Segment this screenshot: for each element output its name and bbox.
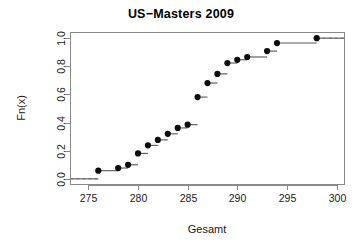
y-tick-label: 0.0: [55, 172, 67, 187]
x-axis-title: Gesamt: [188, 223, 227, 235]
data-point: [165, 131, 171, 137]
x-tick-label: 295: [279, 192, 297, 204]
data-point: [264, 48, 270, 54]
x-tick-label: 300: [329, 192, 347, 204]
data-point: [214, 71, 220, 77]
y-tick-label: 0.6: [55, 87, 67, 102]
data-point: [95, 168, 101, 174]
data-point: [234, 57, 240, 63]
y-axis-title: Fn(x): [15, 95, 27, 121]
data-point: [224, 60, 230, 66]
data-point: [125, 162, 131, 168]
data-points-group: [95, 35, 320, 174]
step-segments-group: [71, 38, 345, 179]
reference-lines-group: [71, 38, 345, 179]
x-tick-label: 285: [180, 192, 198, 204]
data-point: [155, 137, 161, 143]
x-tick-label: 290: [229, 192, 247, 204]
data-point: [175, 125, 181, 131]
x-tick-label: 275: [80, 192, 98, 204]
data-point: [115, 165, 121, 171]
y-tick-label: 0.2: [55, 144, 67, 159]
ecdf-figure: US−Masters 2009 275280285290295300 0.00.…: [0, 0, 362, 245]
y-tick-label: 1.0: [55, 31, 67, 46]
data-point: [194, 94, 200, 100]
chart-canvas: 275280285290295300 0.00.20.40.60.81.0 Ge…: [0, 0, 362, 245]
data-point: [145, 142, 151, 148]
y-tick-label: 0.4: [55, 116, 67, 131]
data-point: [314, 35, 320, 41]
data-point: [274, 40, 280, 46]
data-point: [244, 54, 250, 60]
data-point: [135, 150, 141, 156]
data-point: [204, 80, 210, 86]
data-point: [185, 122, 191, 128]
x-axis: 275280285290295300: [80, 185, 347, 204]
y-tick-label: 0.8: [55, 59, 67, 74]
x-tick-label: 280: [130, 192, 148, 204]
plot-frame: [71, 33, 345, 185]
y-axis: 0.00.20.40.60.81.0: [55, 31, 71, 187]
